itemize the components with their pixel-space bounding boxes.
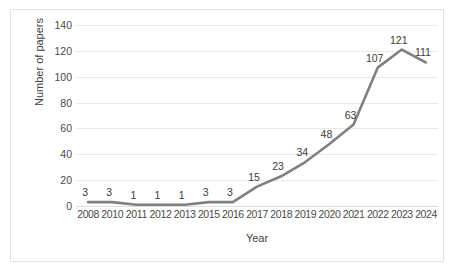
y-axis-tick-label: 80: [26, 97, 72, 109]
data-point-label: 1: [155, 189, 161, 201]
data-point-label: 1: [179, 189, 185, 201]
x-axis-title: Year: [76, 232, 438, 244]
data-point-label: 3: [106, 186, 112, 198]
data-point-label: 107: [366, 52, 384, 64]
x-axis-tick-label: 2023: [390, 208, 414, 224]
data-point-label: 63: [345, 109, 357, 121]
y-axis-tick-labels: 140120100806040200: [20, 25, 72, 206]
y-axis-tick-label: 120: [26, 45, 72, 57]
x-axis-tick-label: 2012: [148, 208, 172, 224]
data-point-label: 23: [272, 160, 284, 172]
x-axis-tick-label: 2024: [414, 208, 438, 224]
x-axis-tick-label: 2013: [173, 208, 197, 224]
y-axis-tick-label: 100: [26, 71, 72, 83]
y-axis-tick-label: 140: [26, 19, 72, 31]
data-point-label: 111: [415, 46, 431, 58]
y-axis-tick-label: 60: [26, 122, 72, 134]
data-point-label: 15: [248, 171, 260, 183]
x-axis-tick-label: 2021: [342, 208, 366, 224]
plot-area: 33111331523344863107121111: [76, 25, 438, 206]
data-point-label: 3: [82, 186, 88, 198]
chart-container: Number of papers 140120100806040200 3311…: [10, 9, 444, 262]
x-axis-tick-label: 2022: [366, 208, 390, 224]
y-axis-tick-label: 40: [26, 148, 72, 160]
x-axis-tick-label: 2011: [124, 208, 148, 224]
data-point-label: 121: [390, 34, 408, 46]
x-axis-tick-label: 2010: [100, 208, 124, 224]
gridline: [76, 206, 438, 207]
x-axis-tick-label: 2016: [221, 208, 245, 224]
data-point-label: 1: [130, 189, 136, 201]
y-axis-tick-label: 20: [26, 174, 72, 186]
x-axis-tick-label: 2019: [293, 208, 317, 224]
x-axis-tick-label: 2015: [197, 208, 221, 224]
data-point-label: 3: [227, 186, 233, 198]
x-axis-tick-labels: 2008201020112012201320152016201720182019…: [76, 208, 438, 224]
y-axis-tick-label: 0: [26, 200, 72, 212]
x-axis-tick-label: 2008: [76, 208, 100, 224]
data-point-label: 34: [296, 146, 308, 158]
x-axis-tick-label: 2018: [269, 208, 293, 224]
x-axis-tick-label: 2017: [245, 208, 269, 224]
data-point-label: 3: [203, 186, 209, 198]
x-axis-tick-label: 2020: [317, 208, 341, 224]
data-point-label: 48: [321, 128, 333, 140]
